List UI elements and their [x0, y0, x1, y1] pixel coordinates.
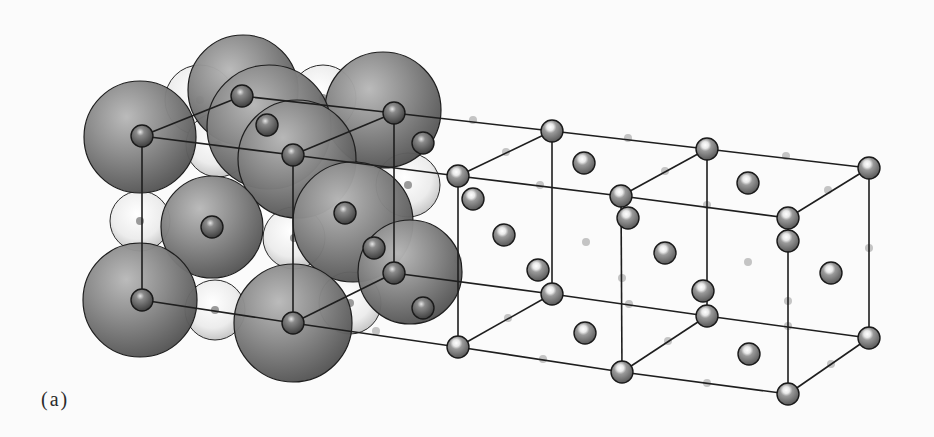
- lattice-bond-line: [552, 131, 707, 149]
- panel-label: (a): [41, 388, 69, 411]
- lattice-bond-line: [458, 347, 622, 372]
- figure-canvas: (a): [0, 0, 934, 437]
- face-center-ion: [820, 262, 842, 284]
- face-center-ion: [574, 322, 596, 344]
- corner-ion: [696, 138, 718, 160]
- large-ion-sphere: [358, 220, 462, 324]
- face-center-ion: [654, 242, 676, 264]
- corner-ion: [777, 383, 799, 405]
- corner-ion: [282, 144, 304, 166]
- lattice-bond-line: [788, 338, 869, 394]
- face-center-ion: [412, 132, 434, 154]
- corner-ion: [777, 207, 799, 229]
- small-ion-center-dot: [404, 181, 412, 189]
- lattice-bond-line: [621, 196, 788, 218]
- lattice-bond-line: [458, 294, 552, 347]
- face-center-ion: [412, 297, 434, 319]
- corner-ion: [231, 85, 253, 107]
- lattice-bond-line: [552, 294, 707, 316]
- face-center-ion: [737, 172, 759, 194]
- corner-ion: [541, 120, 563, 142]
- lattice-bond-line: [788, 168, 869, 218]
- corner-ion: [131, 289, 153, 311]
- lattice-bond-line: [458, 131, 552, 176]
- corner-ion: [131, 125, 153, 147]
- corner-ion: [541, 283, 563, 305]
- corner-ion: [858, 157, 880, 179]
- lattice-bond-line: [707, 149, 869, 168]
- face-center-ion: [363, 237, 385, 259]
- face-center-ion: [573, 152, 595, 174]
- ghost-ion-dot: [744, 258, 752, 266]
- face-center-ion: [462, 188, 484, 210]
- crystal-structure-diagram: [0, 0, 934, 437]
- ghost-ion-dot: [582, 238, 590, 246]
- face-center-ion: [777, 230, 799, 252]
- ghost-ion-dot: [372, 327, 380, 335]
- face-center-ion: [201, 216, 223, 238]
- lattice-bond-line: [622, 316, 707, 372]
- corner-ion: [447, 336, 469, 358]
- lattice-bond-line: [622, 372, 788, 394]
- corner-ion: [383, 102, 405, 124]
- face-center-ion: [493, 224, 515, 246]
- face-center-ion: [617, 207, 639, 229]
- corner-ion: [447, 165, 469, 187]
- face-center-ion: [334, 202, 356, 224]
- corner-ion: [383, 262, 405, 284]
- face-center-ion: [527, 259, 549, 281]
- corner-ion: [696, 305, 718, 327]
- corner-ion: [610, 185, 632, 207]
- corner-ion: [282, 312, 304, 334]
- corner-ion: [611, 361, 633, 383]
- face-center-ion: [692, 280, 714, 302]
- face-center-ion: [738, 343, 760, 365]
- lattice-bond-line: [621, 149, 707, 196]
- face-center-ion: [256, 114, 278, 136]
- corner-ion: [858, 327, 880, 349]
